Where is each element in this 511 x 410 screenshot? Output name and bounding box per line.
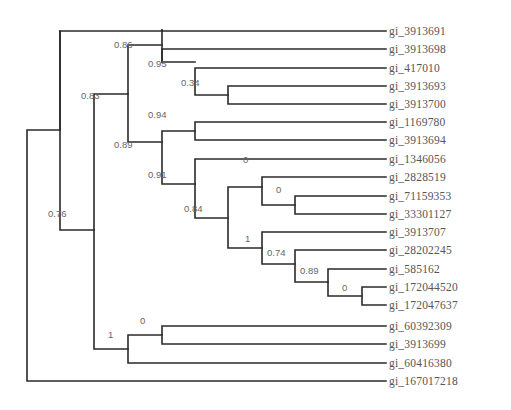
support-value: 0.89 bbox=[114, 140, 133, 150]
branch-node-086c bbox=[162, 49, 386, 62]
leaf-label: gi_2828519 bbox=[389, 171, 446, 183]
branch-node-1b bbox=[128, 335, 386, 363]
leaf-label: gi_1346056 bbox=[389, 153, 446, 165]
support-value: 0 bbox=[243, 155, 248, 165]
leaf-label: gi_3913691 bbox=[389, 25, 446, 37]
branch-node-094b bbox=[195, 122, 386, 140]
leaf-label: gi_3913694 bbox=[389, 134, 446, 146]
support-value: 1 bbox=[245, 234, 250, 244]
support-value: 0.34 bbox=[181, 78, 200, 88]
support-value: 1 bbox=[108, 330, 113, 340]
support-value: 0.83 bbox=[81, 91, 100, 101]
leaf-label: gi_1169780 bbox=[389, 116, 446, 128]
support-value: 0.86 bbox=[114, 40, 133, 50]
leaf-label: gi_71159353 bbox=[389, 190, 451, 202]
leaf-label: gi_172047637 bbox=[389, 299, 458, 311]
leaf-label: gi_33301127 bbox=[389, 208, 451, 220]
support-value: 0.84 bbox=[184, 204, 203, 214]
branch-node-091 bbox=[195, 159, 386, 218]
leaf-label: gi_172044520 bbox=[389, 281, 458, 293]
branch-node-034 bbox=[228, 86, 386, 104]
leaf-label: gi_417010 bbox=[389, 62, 440, 74]
branch-node-076-children bbox=[60, 31, 94, 230]
branch-node-095 bbox=[195, 68, 386, 95]
branch-node-0b bbox=[295, 196, 386, 214]
support-value: 0.74 bbox=[267, 248, 286, 258]
support-value: 0 bbox=[276, 185, 281, 195]
branch-node-076 bbox=[60, 31, 386, 130]
leaf-label: gi_60392309 bbox=[389, 320, 452, 332]
support-value: 0.95 bbox=[148, 59, 167, 69]
support-value: 0.91 bbox=[148, 170, 167, 180]
branch-node-0c bbox=[362, 287, 386, 305]
branch-node-089b bbox=[328, 269, 386, 296]
leaf-label: gi_585162 bbox=[389, 263, 440, 275]
support-value: 0.76 bbox=[48, 209, 67, 219]
leaf-label: gi_167017218 bbox=[389, 375, 458, 387]
leaf-label: gi_3913700 bbox=[389, 98, 446, 110]
support-value: 0 bbox=[342, 283, 347, 293]
branch-node-094 bbox=[94, 94, 128, 349]
leaf-label: gi_3913707 bbox=[389, 226, 446, 238]
leaf-label: gi_3913698 bbox=[389, 43, 446, 55]
leaf-label: gi_3913693 bbox=[389, 80, 446, 92]
leaf-label: gi_60416380 bbox=[389, 357, 452, 369]
support-value: 0.94 bbox=[148, 110, 167, 120]
branch-node-089 bbox=[162, 131, 195, 184]
leaf-label: gi_3913699 bbox=[389, 338, 446, 350]
support-value: 0 bbox=[140, 316, 145, 326]
leaf-label: gi_28202245 bbox=[389, 244, 452, 256]
branch-node-0d bbox=[162, 326, 386, 344]
support-value: 0.89 bbox=[300, 266, 319, 276]
